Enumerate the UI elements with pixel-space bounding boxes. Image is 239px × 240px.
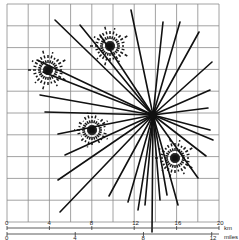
cluster-ray [43, 72, 48, 89]
cluster-center [46, 68, 51, 73]
spoke-line [153, 62, 212, 115]
cluster-center [173, 156, 178, 161]
miles-tick-label: 8 [141, 235, 145, 240]
cluster-ray [170, 160, 175, 177]
miles-unit-label: miles [224, 234, 238, 240]
km-tick-label: 0 [5, 220, 9, 226]
main-spokes [37, 10, 213, 232]
km-tick-label: 8 [90, 220, 94, 226]
miles-tick-label: 4 [73, 235, 77, 240]
km-unit-label: km [224, 225, 232, 231]
miles-scale: 04812 miles [5, 232, 238, 240]
miles-tick-label: 0 [5, 235, 9, 240]
cluster-ray [105, 27, 110, 44]
km-tick-label: 12 [132, 220, 139, 226]
km-tick-label: 16 [175, 220, 182, 226]
spoke-line [153, 22, 180, 115]
hub-center [149, 111, 157, 119]
diagram: 048121620 km 04812 miles [0, 0, 239, 240]
km-tick-label: 4 [47, 220, 51, 226]
miles-tick-label: 12 [210, 235, 217, 240]
